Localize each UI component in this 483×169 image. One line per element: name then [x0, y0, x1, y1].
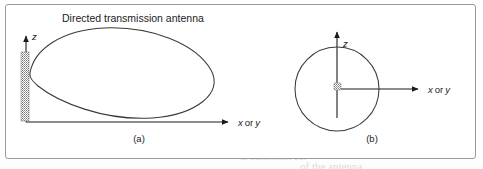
panel-a-axis-label-or: or — [245, 117, 253, 128]
panel-a-z-axis-label: z — [31, 31, 37, 42]
panel-a-axis-label-y: y — [254, 117, 261, 128]
panel-a-axis-label-x: x — [237, 117, 244, 128]
panel-a-title: Directed transmission antenna — [62, 12, 204, 24]
panel-a: Directed transmission antenna z xory (a) — [21, 12, 261, 144]
figure-drawing: Directed transmission antenna z xory (a)… — [0, 0, 483, 169]
antenna-radiation-pattern-figure: the transmitted signalnt of the bandwidt… — [0, 0, 483, 169]
panel-b-axis-label-y: y — [444, 84, 451, 95]
panel-b-xy-axis-label: xory — [427, 84, 451, 95]
panel-a-xy-axis-label: xory — [237, 117, 261, 128]
panel-a-radiation-lobe — [30, 28, 214, 118]
panel-a-caption: (a) — [133, 133, 145, 144]
panel-b-antenna-marker — [334, 83, 341, 90]
panel-b-axis-label-or: or — [435, 84, 443, 95]
panel-b-axis-label-x: x — [427, 84, 434, 95]
panel-a-antenna-marker — [21, 52, 29, 121]
panel-b: z xory (b) — [295, 32, 451, 144]
panel-b-caption: (b) — [366, 133, 378, 144]
